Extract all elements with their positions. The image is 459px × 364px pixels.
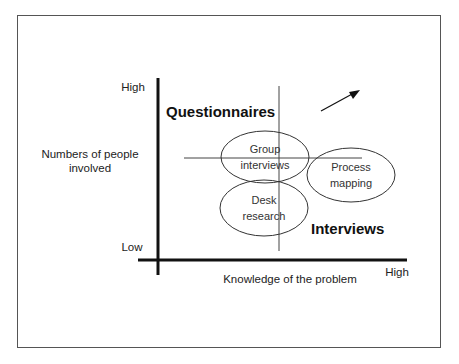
y-axis-title-line2: involved [30, 161, 150, 175]
group-interviews-line1: Group [225, 141, 305, 157]
questionnaires-label: Questionnaires [166, 105, 275, 119]
arrow-head-icon [349, 90, 360, 99]
y-axis-title-line1: Numbers of people [30, 147, 150, 161]
desk-research-line1: Desk [224, 192, 304, 208]
y-axis-low-label: Low [117, 240, 147, 254]
process-mapping-line2: mapping [311, 175, 391, 191]
y-axis-high-label: High [118, 80, 148, 94]
desk-research-line2: research [224, 208, 304, 224]
x-axis-high-label: High [382, 265, 412, 279]
group-interviews-line2: interviews [225, 157, 305, 173]
process-mapping-line1: Process [311, 159, 391, 175]
interviews-label: Interviews [311, 222, 384, 236]
arrow-shaft [321, 93, 354, 111]
x-axis-title: Knowledge of the problem [210, 272, 370, 286]
